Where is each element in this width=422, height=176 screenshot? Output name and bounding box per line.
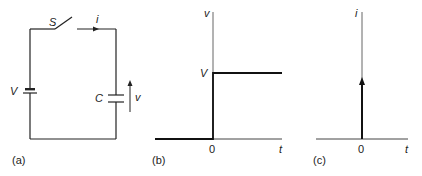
- panel-c-label: (c): [313, 154, 326, 166]
- capacitor-icon: [108, 95, 124, 102]
- level-label: V: [200, 67, 209, 79]
- step-plot-panel: [155, 12, 282, 139]
- capacitor-voltage-label: v: [135, 91, 142, 103]
- switch-blade: [55, 17, 72, 29]
- t-label-b: t: [279, 143, 283, 155]
- battery-icon: [23, 88, 37, 93]
- origin-label-c: 0: [358, 143, 364, 155]
- current-arrow-icon: [93, 27, 99, 32]
- circuit-panel: [30, 17, 116, 139]
- t-label-c: t: [405, 143, 409, 155]
- impulse-plot-panel: [316, 12, 408, 139]
- source-label: V: [10, 85, 19, 97]
- current-label: i: [96, 13, 99, 25]
- i-axis-label: i: [355, 7, 358, 19]
- voltage-arrow-icon: [128, 80, 133, 112]
- panel-a-label: (a): [12, 154, 25, 166]
- figure-canvas: S i V C v (a) v V 0 t (b) i 0 t (c): [0, 0, 422, 176]
- capacitor-label: C: [95, 92, 103, 104]
- origin-label-b: 0: [209, 143, 215, 155]
- switch-label: S: [49, 16, 57, 28]
- impulse-arrow-icon: [359, 77, 365, 85]
- step-curve: [155, 73, 282, 139]
- panel-b-label: (b): [152, 154, 165, 166]
- v-axis-label: v: [204, 7, 211, 19]
